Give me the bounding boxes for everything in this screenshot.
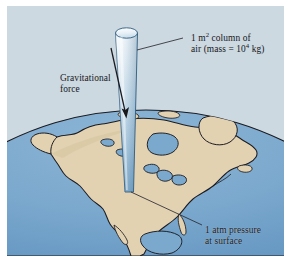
figure-canvas: 1 m2 column of air (mass = 104 kg) Gravi…: [7, 6, 284, 256]
label-gravitational-force: Gravitational force: [60, 73, 111, 95]
newfoundland: [238, 165, 253, 172]
label-air-column-line2: air (mass = 104 kg): [191, 44, 265, 55]
label-pressure-line1: 1 atm pressure: [205, 225, 261, 235]
hudson-bay: [147, 133, 178, 155]
air-column-top-cap: [116, 28, 138, 38]
great-lakes-west: [144, 164, 159, 173]
label-pressure-line2: at surface: [205, 236, 261, 247]
label-air-column-line1: 1 m2 column of: [191, 33, 251, 43]
label-air-column: 1 m2 column of air (mass = 104 kg): [191, 33, 265, 55]
figure-root: 1 m2 column of air (mass = 104 kg) Gravi…: [0, 0, 291, 263]
label-atm-pressure: 1 atm pressure at surface: [205, 225, 261, 247]
label-gravity-line1: Gravitational: [60, 73, 111, 83]
label-gravity-line2: force: [60, 84, 111, 95]
northern-lake-1: [101, 139, 114, 146]
great-lakes-east: [172, 175, 187, 185]
great-lakes: [157, 170, 173, 181]
